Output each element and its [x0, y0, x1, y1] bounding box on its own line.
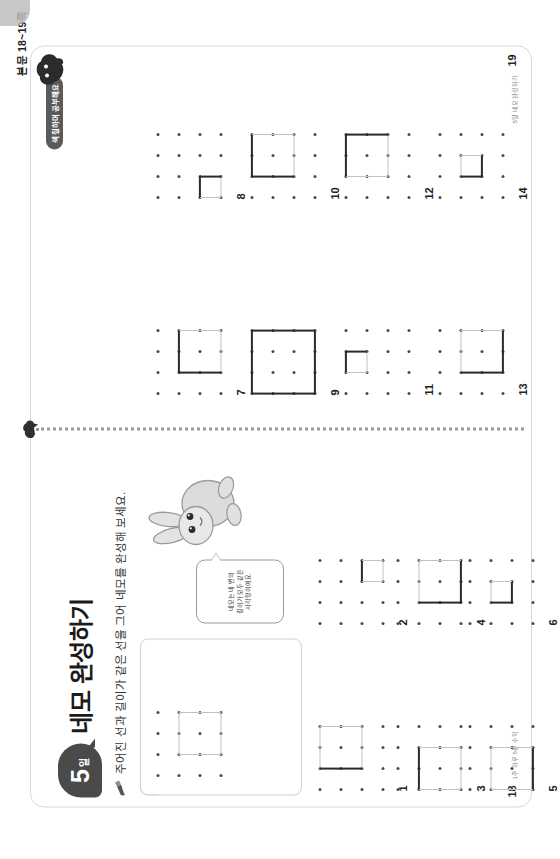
- given-segment-left: [252, 175, 294, 177]
- dot-grid[interactable]: [346, 330, 409, 393]
- grid-dot: [220, 154, 223, 157]
- given-segment-top: [199, 176, 201, 197]
- given-segment-bottom: [532, 747, 534, 789]
- dot-grid[interactable]: [470, 726, 533, 789]
- missing-segment-left: [346, 372, 367, 373]
- grid-dot: [439, 580, 442, 583]
- grid-dot: [382, 746, 385, 749]
- grid-dot: [397, 601, 400, 604]
- grid-dot: [397, 788, 400, 791]
- grid-dot: [314, 196, 317, 199]
- grid-dot: [382, 725, 385, 728]
- missing-segment-top: [179, 712, 180, 754]
- day-badge-number: 5: [68, 769, 93, 783]
- grid-dot: [481, 133, 484, 136]
- dot-grid[interactable]: [320, 726, 383, 789]
- grid-dot: [340, 601, 343, 604]
- grid-dot: [178, 392, 181, 395]
- grid-dot: [319, 601, 322, 604]
- given-segment-top: [361, 560, 363, 581]
- missing-segment-bottom: [383, 560, 384, 581]
- grid-dot: [382, 767, 385, 770]
- grid-dot: [532, 559, 535, 562]
- grid-dot: [340, 746, 343, 749]
- grid-dot: [469, 788, 472, 791]
- dot-grid[interactable]: [158, 712, 221, 775]
- dot-grid[interactable]: [398, 560, 461, 623]
- given-segment-top: [178, 330, 180, 372]
- dot-grid[interactable]: [440, 134, 503, 197]
- dot-grid[interactable]: [346, 134, 409, 197]
- grid-dot: [272, 196, 275, 199]
- grid-dot: [157, 154, 160, 157]
- grid-dot: [366, 392, 369, 395]
- grid-dot: [481, 392, 484, 395]
- grid-dot: [490, 559, 493, 562]
- grid-dot: [319, 622, 322, 625]
- dot-grid[interactable]: [470, 560, 533, 623]
- dot-grid[interactable]: [440, 330, 503, 393]
- grid-dot: [397, 767, 400, 770]
- missing-segment-left: [419, 789, 461, 790]
- grid-dot: [157, 329, 160, 332]
- given-segment-bottom: [460, 560, 462, 602]
- grid-dot: [439, 175, 442, 178]
- speech-bubble-text: 네모는 네 변의 길이가 모두 같은 사각형이에요.: [197, 560, 283, 622]
- grid-dot: [439, 329, 442, 332]
- dot-grid[interactable]: [158, 330, 221, 393]
- missing-segment-right: [252, 134, 294, 135]
- grid-dot: [361, 601, 364, 604]
- missing-segment-right: [461, 155, 482, 156]
- grid-dot: [469, 580, 472, 583]
- missing-segment-right: [179, 330, 221, 331]
- missing-segment-bottom: [362, 726, 363, 768]
- grid-dot: [199, 133, 202, 136]
- grid-dot: [319, 788, 322, 791]
- missing-segment-top: [320, 726, 321, 768]
- grid-dot: [439, 371, 442, 374]
- grid-dot: [220, 392, 223, 395]
- missing-segment-top: [461, 330, 462, 372]
- grid-dot: [502, 392, 505, 395]
- problem-number: 9: [329, 389, 341, 395]
- missing-segment-right: [419, 747, 461, 748]
- grid-dot: [293, 196, 296, 199]
- given-segment-right: [200, 175, 221, 177]
- grid-dot: [319, 559, 322, 562]
- rotated-page-spread: 본문 18~19쪽 5 일 네모 완성하기 주어진 선과 길이가 같은 선을 그…: [0, 0, 560, 859]
- problem-number: 13: [517, 383, 529, 395]
- dot-grid[interactable]: [398, 726, 461, 789]
- grid-dot: [418, 725, 421, 728]
- grid-dot: [408, 392, 411, 395]
- grid-dot: [502, 196, 505, 199]
- missing-segment-right: [491, 581, 512, 582]
- given-segment-top: [345, 351, 347, 372]
- grid-dot: [178, 774, 181, 777]
- grid-dot: [460, 196, 463, 199]
- grid-dot: [387, 350, 390, 353]
- dot-grid[interactable]: [320, 560, 383, 623]
- problem-number: 8: [235, 193, 247, 199]
- missing-segment-top: [491, 747, 492, 789]
- dot-grid[interactable]: [252, 330, 315, 393]
- missing-segment-left: [346, 176, 388, 177]
- grid-dot: [481, 350, 484, 353]
- grid-dot: [157, 711, 160, 714]
- grid-dot: [460, 622, 463, 625]
- given-segment-top: [418, 747, 420, 789]
- given-segment-bottom: [481, 155, 483, 176]
- grid-dot: [272, 371, 275, 374]
- given-segment-top: [251, 330, 253, 393]
- grid-dot: [361, 788, 364, 791]
- dot-grid[interactable]: [158, 134, 221, 197]
- grid-dot: [293, 371, 296, 374]
- grid-dot: [178, 154, 181, 157]
- grid-dot: [220, 774, 223, 777]
- grid-dot: [178, 196, 181, 199]
- grid-dot: [460, 133, 463, 136]
- grid-dot: [469, 767, 472, 770]
- problem-number: 7: [235, 389, 247, 395]
- problem-number: 10: [329, 187, 341, 199]
- dot-grid[interactable]: [252, 134, 315, 197]
- grid-dot: [340, 559, 343, 562]
